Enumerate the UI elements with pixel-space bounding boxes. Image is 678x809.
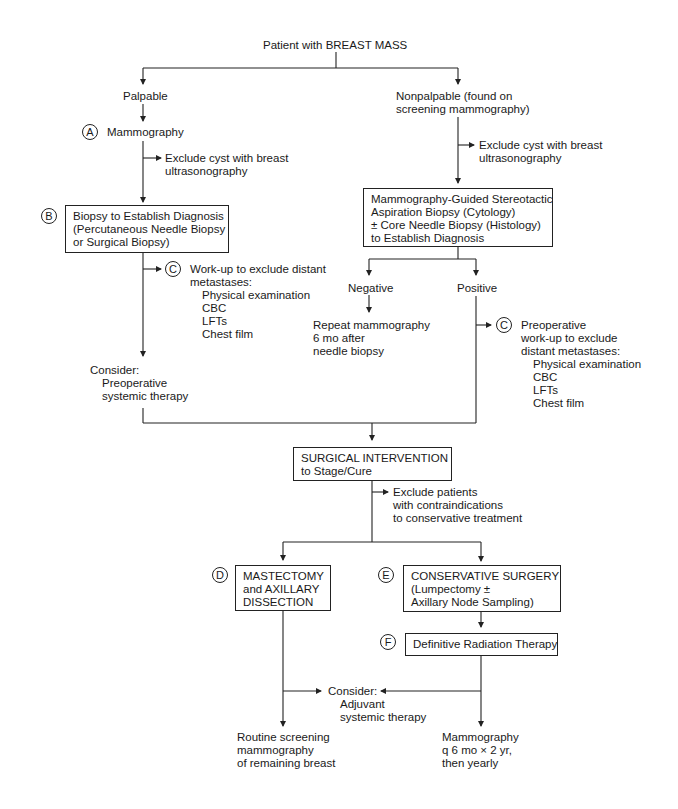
mastectomy-box: MASTECTOMY and AXILLARY DISSECTION xyxy=(235,565,331,611)
marker-f-icon: F xyxy=(380,634,396,650)
positive-label: Positive xyxy=(457,282,497,295)
exclude-patients: Exclude patients with contraindications … xyxy=(393,486,522,525)
marker-c-icon: C xyxy=(165,261,181,277)
palpable-exclude-cyst: Exclude cyst with breast ultrasonography xyxy=(165,152,288,178)
palpable-workup: Work-up to exclude distant metastases: P… xyxy=(190,263,326,341)
repeat-mammography: Repeat mammography 6 mo after needle bio… xyxy=(313,319,430,358)
palpable-label: Palpable xyxy=(123,90,168,103)
nonpalpable-label: Nonpalpable (found on screening mammogra… xyxy=(396,90,530,116)
surgical-intervention-box: SURGICAL INTERVENTION to Stage/Cure xyxy=(293,447,452,481)
marker-d-icon: D xyxy=(212,567,228,583)
marker-c2-icon: C xyxy=(496,317,512,333)
nonpalpable-exclude-cyst: Exclude cyst with breast ultrasonography xyxy=(479,139,602,165)
negative-label: Negative xyxy=(348,282,393,295)
preoperative-consider: Consider: Preoperative systemic therapy xyxy=(90,364,188,403)
biopsy-diagnosis-box: Biopsy to Establish Diagnosis (Percutane… xyxy=(65,205,229,253)
conservative-surgery-box: CONSERVATIVE SURGERY (Lumpectomy ± Axill… xyxy=(403,565,561,612)
stereotactic-biopsy-box: Mammography-Guided Stereotactic Aspirati… xyxy=(363,188,553,247)
adjuvant-consider: Consider: Adjuvant systemic therapy xyxy=(328,685,426,724)
radiation-therapy-box: Definitive Radiation Therapy xyxy=(405,633,558,656)
root-node: Patient with BREAST MASS xyxy=(263,39,407,52)
marker-b-icon: B xyxy=(41,208,57,224)
mammography-step: Mammography xyxy=(107,126,184,139)
nonpalpable-workup: Preoperative work-up to exclude distant … xyxy=(521,319,641,410)
routine-screening: Routine screening mammography of remaini… xyxy=(237,731,335,770)
mammography-followup: Mammography q 6 mo × 2 yr, then yearly xyxy=(442,731,519,770)
marker-e-icon: E xyxy=(378,567,394,583)
marker-a-icon: A xyxy=(82,124,98,140)
